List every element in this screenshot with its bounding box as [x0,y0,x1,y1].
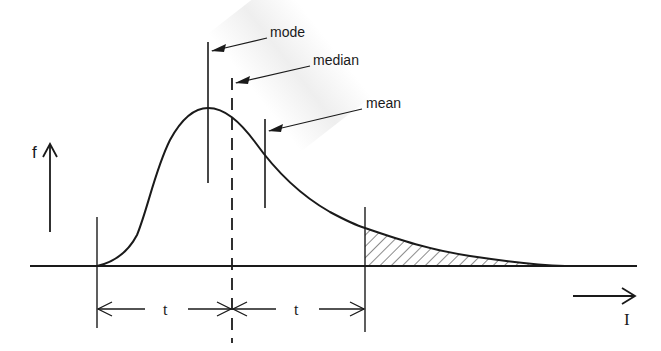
f-axis-arrow [43,144,57,232]
left-t-label: t [163,301,168,318]
right-t-dimension [233,302,364,316]
right-t-label: t [294,301,299,318]
distribution-curve [97,108,600,266]
f-axis-label: f [32,143,37,162]
mean-leader-arrow [268,109,362,132]
mode-leader-arrow [211,38,267,52]
hatched-tail-region [365,220,575,270]
median-leader-arrow [235,66,310,84]
i-axis-arrow [573,288,635,304]
mode-label: mode [270,24,305,40]
i-axis-label: I [624,310,630,329]
median-label: median [313,52,359,68]
distribution-diagram: mode median mean f t t I [0,0,661,351]
mean-label: mean [366,95,401,111]
